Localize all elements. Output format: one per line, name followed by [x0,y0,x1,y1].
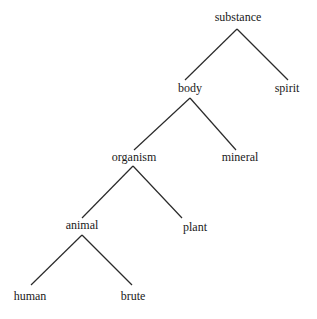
node-substance: substance [215,10,262,24]
edge-substance-spirit [237,29,288,80]
tree-edges [0,0,317,319]
node-animal: animal [66,218,99,232]
node-human: human [14,289,47,303]
node-mineral: mineral [222,150,259,164]
node-body: body [178,81,202,95]
tree-diagram: substance body spirit organism mineral a… [0,0,317,319]
node-organism: organism [112,150,156,164]
node-spirit: spirit [275,81,300,95]
edge-organism-animal [82,166,133,218]
edge-animal-human [31,235,82,285]
node-brute: brute [121,289,146,303]
node-plant: plant [183,220,207,234]
edge-body-mineral [190,98,236,150]
edge-animal-brute [82,235,132,285]
edge-substance-body [185,29,237,80]
edge-body-organism [134,98,190,150]
edge-organism-plant [133,166,182,218]
